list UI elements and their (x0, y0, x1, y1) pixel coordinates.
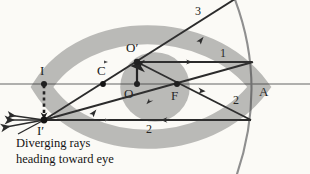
caption-line-2: heading toward eye (16, 152, 114, 168)
ray-diagram-figure: I I′ C O O′ F A 3 1 2 2 Diverging rays h… (0, 0, 310, 174)
caption-line-1: Diverging rays (16, 136, 114, 152)
caption: Diverging rays heading toward eye (16, 136, 114, 167)
